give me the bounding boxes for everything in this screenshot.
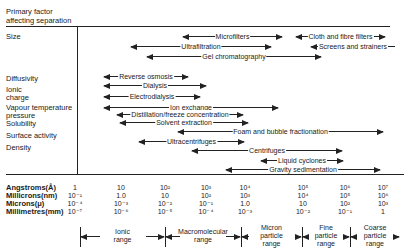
arrow-right-icon [272, 105, 279, 111]
arrow-left-icon [116, 112, 123, 118]
scale-value: 10 [109, 184, 133, 192]
method-range-arrow: Reverse osmosis [104, 76, 188, 77]
method-label: Reverse osmosis [118, 72, 174, 81]
factor-label: Diffusivity [6, 75, 38, 84]
arrow-right-icon [200, 83, 207, 89]
arrow-left-icon [103, 83, 110, 89]
method-label: Ultracentrifuges [166, 137, 217, 146]
factor-label: Density [6, 144, 31, 153]
method-range-arrow: Dialysis [104, 85, 206, 86]
scale-value: 10² [194, 192, 218, 200]
scale-value: 10² [153, 184, 177, 192]
method-range-arrow: Foam and bubble fractionation [178, 131, 383, 132]
arrow-right-icon [336, 148, 343, 154]
range-label-line: range [241, 240, 302, 248]
arrow-left-icon [182, 34, 189, 40]
range-label-line: Coarse [350, 224, 400, 232]
range-label-line: range [302, 240, 350, 248]
range-label-line: particle [302, 232, 350, 240]
arrow-left-icon [138, 139, 145, 145]
header-line-1: Primary factor [6, 7, 71, 16]
arrow-left-icon [260, 158, 267, 164]
arrow-right-icon [242, 120, 249, 126]
range-boundary-tick [80, 227, 81, 247]
scale-value: 10³ [194, 184, 218, 192]
arrow-left-icon [119, 120, 126, 126]
header-primary-factor: Primary factor affecting separation [6, 7, 71, 25]
method-range-arrow: Ultrafiltration [131, 46, 271, 47]
range-boundary-tick [302, 227, 303, 247]
method-label: Liquid cyclones [277, 156, 327, 165]
scale-value: 10⁻² [153, 200, 177, 208]
arrow-right-icon [194, 94, 201, 100]
scale-value: 1 [63, 184, 87, 192]
scale-value: 10³ [233, 192, 257, 200]
range-label: Micronparticlerange [241, 224, 302, 248]
scale-value: 10⁻¹ [194, 200, 218, 208]
arrow-left-icon [146, 54, 153, 60]
arrow-right-icon [374, 167, 381, 173]
scale-value: 10⁷ [371, 184, 395, 192]
method-range-arrow: Centrifuges [192, 150, 342, 151]
scale-value: 10⁻³ [233, 208, 257, 216]
method-label: Screens and strainers [318, 42, 388, 51]
scale-value: 10⁴ [291, 192, 315, 200]
scale-value: 10⁻¹ [333, 208, 357, 216]
arrow-left-icon [310, 44, 317, 50]
scale-value: 1 [371, 208, 395, 216]
arrow-left-icon [191, 148, 198, 154]
scale-value: 10⁻² [291, 208, 315, 216]
range-label-line: range [165, 236, 241, 244]
header-line-2: affecting separation [6, 16, 71, 25]
range-label-line: range [80, 236, 165, 244]
scale-value: 10⁻³ [109, 200, 133, 208]
method-range-arrow: Ultracentrifuges [139, 141, 244, 142]
method-range-arrow: Microfilters [183, 36, 282, 37]
arrow-left-icon [103, 94, 110, 100]
scale-value: 10⁴ [233, 184, 257, 192]
scale-value: 10⁻¹ [63, 192, 87, 200]
arrow-right-icon [315, 54, 322, 60]
range-label: Ionicrange [80, 228, 165, 244]
scale-value: 10³ [371, 200, 395, 208]
factor-label: Size [6, 33, 21, 42]
method-label: Centrifuges [248, 146, 286, 155]
range-label-line: Ionic [80, 228, 165, 236]
factor-label: charge [6, 94, 29, 103]
method-range-arrow: Liquid cyclones [261, 160, 343, 161]
arrow-right-icon [379, 34, 386, 40]
method-label: Foam and bubble fractionation [232, 127, 329, 136]
arrow-right-icon [182, 74, 189, 80]
arrow-right-icon [265, 44, 272, 50]
range-label-line: range [350, 240, 400, 248]
range-label-line: particle [241, 232, 302, 240]
scale-value: 10⁻⁴ [194, 208, 218, 216]
arrow-left-icon [103, 105, 110, 111]
scale-value: 10⁵ [333, 192, 357, 200]
method-range-arrow: Solvent extraction [120, 122, 248, 123]
scale-value: 10⁶ [333, 184, 357, 192]
factor-label: Solubility [6, 120, 36, 129]
arrow-right-icon [276, 34, 283, 40]
bottom-rule [6, 174, 404, 175]
arrow-left-icon [130, 44, 137, 50]
range-label-line: Micron [241, 224, 302, 232]
unit-millimetres: Millimetres(mm) [6, 208, 64, 216]
scale-value: 10 [153, 192, 177, 200]
arrow-right-icon [238, 139, 245, 145]
range-label: Macromolecularrange [165, 228, 241, 244]
method-label: Electrodialysis [129, 92, 176, 101]
arrow-right-icon [377, 129, 384, 135]
range-label: Fineparticlerange [302, 224, 350, 248]
method-range-arrow: Ion exchange [104, 107, 278, 108]
scale-value: 1.0 [233, 200, 257, 208]
scale-value: 10⁵ [291, 184, 315, 192]
scale-value: 10⁻⁶ [109, 208, 133, 216]
range-boundary-tick [165, 227, 166, 247]
range-label-line: particle [350, 232, 400, 240]
method-label: Microfilters [215, 32, 251, 41]
range-label: Coarseparticlerange [350, 224, 400, 248]
range-label-line: Fine [302, 224, 350, 232]
scale-value: 10² [333, 200, 357, 208]
factor-label: Surface activity [6, 132, 57, 141]
